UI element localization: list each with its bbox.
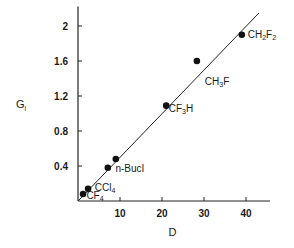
data-point (105, 164, 112, 171)
point-label-text: CF (169, 103, 182, 114)
x-tick-label: 20 (156, 208, 168, 219)
y-tick-label: 1.6 (54, 56, 68, 67)
data-point (239, 31, 246, 38)
y-tick-label: 1.2 (54, 91, 68, 102)
point-label: n-BucI (115, 163, 144, 174)
point-label: CF3H (169, 103, 193, 115)
data-point (80, 191, 87, 198)
point-label: CCl4 (95, 182, 116, 194)
labels: CF4CCl4n-BucICF3HCH3FCH2F2 (86, 29, 276, 202)
point-label-text: CH (205, 76, 219, 87)
point-label-subscript: 4 (100, 195, 104, 202)
point-label-text: H (186, 103, 193, 114)
y-tick-label: 0.4 (54, 161, 68, 172)
x-axis-label: D (169, 226, 177, 238)
x-tick-label: 40 (240, 208, 252, 219)
point-label-subscript: 4 (111, 187, 115, 194)
point-label: CH2F2 (248, 29, 276, 41)
y-tick-label: 0.8 (54, 126, 68, 137)
y-axis-label-subscript: i (25, 105, 27, 112)
point-label-text: F (223, 76, 229, 87)
point-label-text: CCl (95, 182, 112, 193)
point-label-text: n-BucI (115, 163, 144, 174)
y-axis-label: Gi (16, 98, 27, 112)
data-point (113, 156, 120, 163)
data-point (194, 58, 201, 65)
point-label-text: CH (248, 29, 262, 40)
point-label-subscript: 2 (272, 34, 276, 41)
y-tick-label: 2 (62, 21, 68, 32)
point-label: CH3F (205, 76, 229, 88)
chart: 102030400.40.81.21.62DGi CF4CCl4n-BucICF… (0, 0, 294, 248)
x-tick-label: 30 (198, 208, 210, 219)
x-tick-label: 10 (114, 208, 126, 219)
